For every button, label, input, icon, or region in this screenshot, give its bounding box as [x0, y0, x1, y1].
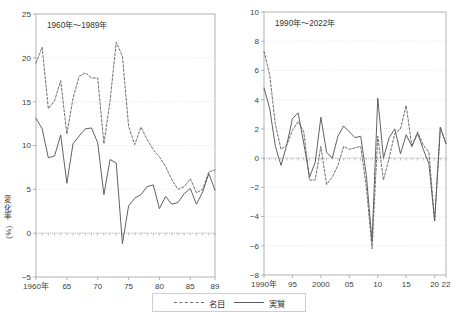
svg-text:85: 85	[186, 282, 195, 291]
svg-text:20: 20	[430, 280, 439, 289]
svg-text:95: 95	[288, 280, 297, 289]
svg-text:10: 10	[22, 141, 31, 150]
svg-text:80: 80	[155, 282, 164, 291]
svg-text:5: 5	[27, 185, 32, 194]
svg-text:65: 65	[62, 282, 71, 291]
chart-panel-right: −8−6−4−202468101990年95200005101520221990…	[228, 0, 456, 313]
svg-text:1990年〜2022年: 1990年〜2022年	[275, 18, 335, 28]
svg-text:8: 8	[255, 37, 260, 46]
svg-text:6: 6	[255, 66, 260, 75]
legend-dashed-line-icon	[174, 302, 204, 303]
svg-text:70: 70	[93, 282, 102, 291]
svg-text:1990年: 1990年	[251, 279, 277, 289]
svg-text:0: 0	[27, 229, 32, 238]
y-axis-unit: （%）	[3, 221, 12, 232]
svg-text:0: 0	[255, 154, 260, 163]
chart-panel-left: −505101520251960年6570758085891960年〜1989年…	[0, 0, 228, 313]
legend-label-nominal: 名目	[209, 297, 225, 309]
svg-text:20: 20	[22, 54, 31, 63]
legend-solid-line-icon	[234, 302, 264, 303]
svg-text:−4: −4	[250, 212, 260, 221]
legend-label-real: 実質	[269, 297, 285, 309]
svg-text:25: 25	[22, 10, 31, 19]
left-y-axis-title: 変化率（%）	[2, 196, 13, 230]
svg-text:10: 10	[250, 8, 259, 17]
svg-text:2000: 2000	[312, 280, 330, 289]
svg-text:1960年: 1960年	[23, 281, 49, 291]
legend-item-real: 実質	[234, 297, 285, 309]
svg-text:89: 89	[211, 282, 220, 291]
svg-text:22: 22	[442, 280, 451, 289]
svg-text:10: 10	[373, 280, 382, 289]
left-chart-svg: −505101520251960年6570758085891960年〜1989年	[0, 0, 228, 313]
svg-text:05: 05	[345, 280, 354, 289]
svg-text:−2: −2	[250, 183, 260, 192]
chart-legend: 名目 実質	[152, 293, 306, 312]
svg-text:2: 2	[255, 125, 260, 134]
svg-text:15: 15	[402, 280, 411, 289]
svg-text:75: 75	[124, 282, 133, 291]
svg-text:4: 4	[255, 96, 260, 105]
legend-item-nominal: 名目	[174, 297, 225, 309]
figure-root: −505101520251960年6570758085891960年〜1989年…	[0, 0, 456, 313]
svg-text:1960年〜1989年: 1960年〜1989年	[47, 20, 107, 30]
svg-text:−6: −6	[250, 242, 260, 251]
svg-text:15: 15	[22, 98, 31, 107]
right-chart-svg: −8−6−4−202468101990年95200005101520221990…	[228, 0, 456, 313]
